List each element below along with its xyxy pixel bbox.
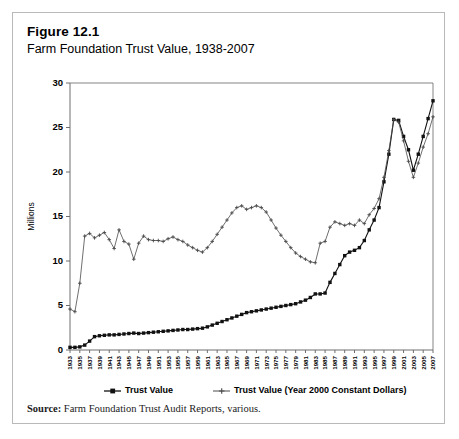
x-tick-label: 1997 (380, 355, 387, 369)
x-tick-label: 1933 (66, 355, 73, 369)
x-tick-label: 1943 (115, 355, 122, 369)
x-tick-label: 1963 (214, 355, 221, 369)
x-tick-label: 1939 (96, 355, 103, 369)
x-tick-label: 1947 (135, 355, 142, 369)
y-axis-title: Millions (26, 202, 36, 230)
legend-label: Trust Value (125, 385, 173, 395)
x-tick-label: 1971 (253, 355, 260, 369)
source-note: Source: Farm Foundation Trust Audit Repo… (27, 403, 261, 414)
x-tick-label: 1957 (184, 355, 191, 369)
y-tick-label: 5 (58, 299, 64, 310)
y-tick-label: 0 (58, 344, 63, 355)
x-tick-label: 1983 (312, 355, 319, 369)
x-tick-label: 1949 (145, 355, 152, 369)
figure-title: Farm Foundation Trust Value, 1938-2007 (27, 41, 427, 57)
chart-legend: Trust ValueTrust Value (Year 2000 Consta… (104, 385, 407, 395)
source-text: Farm Foundation Trust Audit Reports, var… (61, 403, 261, 414)
trust-value-line-chart: 051015202530Millions19331935193719391941… (21, 61, 438, 406)
series-markers (68, 99, 434, 349)
x-tick-label: 1987 (331, 355, 338, 369)
x-tick-label: 1955 (174, 355, 181, 369)
x-tick-label: 1985 (321, 355, 328, 369)
x-tick-label: 1973 (263, 355, 270, 369)
y-tick-label: 10 (52, 255, 63, 266)
y-tick-label: 20 (52, 166, 63, 177)
x-tick-label: 1991 (351, 355, 358, 369)
y-tick-label: 25 (52, 121, 63, 132)
x-tick-label: 2003 (410, 355, 417, 369)
figure-card: Figure 12.1 Farm Foundation Trust Value,… (12, 12, 445, 424)
figure-header: Figure 12.1 Farm Foundation Trust Value,… (27, 23, 427, 57)
x-tick-label: 1993 (361, 355, 368, 369)
x-tick-label: 1941 (106, 355, 113, 369)
x-tick-label: 2001 (400, 355, 407, 369)
x-tick-label: 1979 (292, 355, 299, 369)
x-tick-label: 1951 (155, 355, 162, 369)
x-tick-label: 2005 (420, 355, 427, 369)
x-tick-label: 1937 (86, 355, 93, 369)
x-tick-label: 1965 (223, 355, 230, 369)
source-label: Source: (27, 403, 61, 414)
x-tick-label: 1953 (165, 355, 172, 369)
series-markers (68, 115, 435, 314)
x-tick-label: 1989 (341, 355, 348, 369)
chart-plot: 051015202530Millions19331935193719391941… (21, 61, 438, 406)
x-tick-label: 1995 (371, 355, 378, 369)
x-tick-label: 1969 (243, 355, 250, 369)
y-tick-label: 30 (52, 77, 63, 88)
x-tick-label: 1959 (194, 355, 201, 369)
x-tick-label: 1975 (272, 355, 279, 369)
x-tick-label: 1999 (390, 355, 397, 369)
x-tick-label: 1977 (282, 355, 289, 369)
x-tick-label: 1935 (76, 355, 83, 369)
y-tick-label: 15 (52, 210, 63, 221)
x-tick-label: 1961 (204, 355, 211, 369)
x-tick-label: 1967 (233, 355, 240, 369)
x-tick-label: 1945 (125, 355, 132, 369)
figure-number: Figure 12.1 (27, 23, 427, 40)
x-tick-label: 2007 (429, 355, 436, 369)
legend-label: Trust Value (Year 2000 Constant Dollars) (234, 385, 407, 395)
x-tick-label: 1981 (302, 355, 309, 369)
